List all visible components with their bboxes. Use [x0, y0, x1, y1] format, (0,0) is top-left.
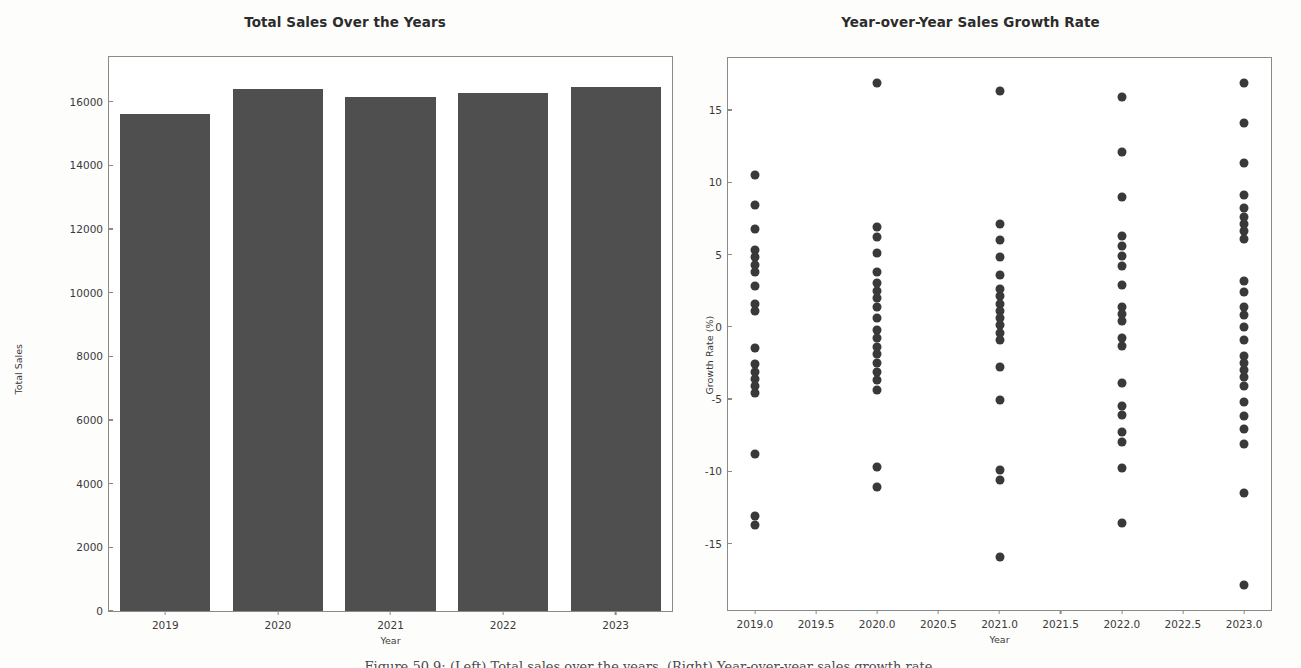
scatter-point [1240, 425, 1249, 434]
y-tick-label: 0 [96, 605, 109, 617]
scatter-point [1117, 192, 1126, 201]
scatter-point [873, 314, 882, 323]
x-tick-label: 2021.5 [1042, 618, 1079, 630]
scatter-point [1240, 382, 1249, 391]
scatter-point [1240, 581, 1249, 590]
scatter-point [750, 306, 759, 315]
y-tick-label: -15 [705, 538, 728, 550]
bars-layer [109, 57, 672, 611]
scatter-point [873, 334, 882, 343]
y-tick-label: 0 [715, 321, 728, 333]
y-tick--5: -5 [712, 393, 728, 405]
x-tick-mark [1060, 610, 1061, 614]
y-tick-mark [109, 101, 113, 102]
y-tick-mark [728, 543, 732, 544]
x-tick-label: 2019.5 [798, 618, 835, 630]
x-tick-2023: 2023 [602, 611, 629, 631]
x-tick-label: 2019.0 [737, 618, 774, 630]
y-tick-mark [728, 254, 732, 255]
x-tick-label: 2023 [602, 619, 629, 631]
chart-title-total-sales: Total Sales Over the Years [0, 14, 690, 30]
figure-caption: Figure 50.9: (Left) Total sales over the… [0, 652, 1301, 668]
x-tick-2019.0: 2019.0 [737, 610, 774, 630]
y-tick--15: -15 [705, 538, 728, 550]
x-tick-2020.0: 2020.0 [859, 610, 896, 630]
scatter-point [873, 350, 882, 359]
x-tick-2022.0: 2022.0 [1103, 610, 1140, 630]
x-tick-mark [277, 611, 278, 615]
scatter-point [1117, 93, 1126, 102]
scatter-point [1117, 519, 1126, 528]
y-tick-mark [109, 356, 113, 357]
scatter-point [1117, 438, 1126, 447]
y-tick-mark [728, 471, 732, 472]
scatter-point [995, 465, 1004, 474]
y-tick-label: 14000 [70, 159, 109, 171]
y-tick-label: 10000 [70, 287, 109, 299]
x-tick-label: 2020 [265, 619, 292, 631]
y-tick-15: 15 [709, 104, 728, 116]
scatter-point [995, 335, 1004, 344]
y-tick-16000: 16000 [70, 96, 109, 108]
x-tick-mark [877, 610, 878, 614]
scatter-point [1117, 379, 1126, 388]
scatter-point [995, 270, 1004, 279]
scatter-point [873, 233, 882, 242]
x-tick-label: 2022 [490, 619, 517, 631]
y-tick-5: 5 [715, 249, 728, 261]
y-tick-10000: 10000 [70, 287, 109, 299]
x-tick-2021.0: 2021.0 [981, 610, 1018, 630]
scatter-point [1240, 288, 1249, 297]
y-tick-label: 8000 [76, 350, 109, 362]
scatter-point [750, 520, 759, 529]
figure-page: Total Sales Over the Years Total Sales 0… [0, 0, 1301, 668]
x-tick-2020: 2020 [265, 611, 292, 631]
scatter-point [995, 253, 1004, 262]
scatter-point [995, 396, 1004, 405]
scatter-point [750, 201, 759, 210]
scatter-point [1240, 311, 1249, 320]
scatter-point [873, 462, 882, 471]
y-tick-4000: 4000 [76, 478, 109, 490]
scatter-point [873, 249, 882, 258]
x-tick-mark [1244, 610, 1245, 614]
scatter-point [1240, 439, 1249, 448]
chart-panel-total-sales: Total Sales Over the Years Total Sales 0… [0, 14, 690, 634]
x-tick-label: 2021 [377, 619, 404, 631]
scatter-point [873, 325, 882, 334]
x-axis-label-total-sales: Year [108, 635, 673, 646]
y-tick-mark [109, 547, 113, 548]
y-tick-mark [109, 419, 113, 420]
scatter-point [995, 363, 1004, 372]
x-axis-label-growth-rate: Year [727, 634, 1272, 645]
y-tick-label: -10 [705, 465, 728, 477]
scatter-point [750, 267, 759, 276]
y-tick-label: -5 [712, 393, 728, 405]
scatter-point [1117, 147, 1126, 156]
scatter-point [1240, 397, 1249, 406]
x-tick-label: 2020.5 [920, 618, 957, 630]
x-tick-2019: 2019 [152, 611, 179, 631]
y-tick-label: 6000 [76, 414, 109, 426]
y-tick-label: 15 [709, 104, 728, 116]
y-tick-mark [728, 326, 732, 327]
y-tick-mark [109, 610, 113, 611]
bar-2022 [458, 93, 548, 611]
scatter-point [1117, 241, 1126, 250]
scatter-point [750, 449, 759, 458]
scatter-point [995, 220, 1004, 229]
y-tick-14000: 14000 [70, 159, 109, 171]
x-tick-label: 2020.0 [859, 618, 896, 630]
scatter-point [1240, 412, 1249, 421]
x-tick-mark [390, 611, 391, 615]
scatter-point [1240, 322, 1249, 331]
y-tick-label: 12000 [70, 223, 109, 235]
scatter-point [750, 512, 759, 521]
x-tick-label: 2023.0 [1226, 618, 1263, 630]
y-tick-10: 10 [709, 176, 728, 188]
scatter-point [1117, 341, 1126, 350]
chart-title-growth-rate: Year-over-Year Sales Growth Rate [670, 14, 1271, 30]
scatter-point [873, 376, 882, 385]
scatter-point [1240, 159, 1249, 168]
x-tick-mark [1121, 610, 1122, 614]
